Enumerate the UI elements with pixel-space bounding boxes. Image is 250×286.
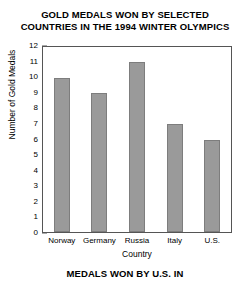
y-tick-label-4: 4 <box>34 167 38 175</box>
bar-italy <box>167 124 183 232</box>
y-tick-label-0: 0 <box>34 229 38 237</box>
x-axis-label: Country <box>42 249 232 259</box>
chart-figure: GOLD MEDALS WON BY SELECTED COUNTRIES IN… <box>0 0 250 286</box>
y-tick-label-10: 10 <box>29 73 38 81</box>
y-axis-tick-labels: 1211109876543210 <box>22 46 38 233</box>
bar-slot <box>43 47 81 232</box>
bottom-caption: MEDALS WON BY U.S. IN <box>0 268 250 280</box>
y-axis-label: Number of Gold Medals <box>8 35 17 155</box>
y-tick-label-9: 9 <box>34 89 38 97</box>
chart-title-line-2: COUNTRIES IN THE 1994 WINTER OLYMPICS <box>0 21 250 33</box>
bar-russia <box>129 62 145 232</box>
y-tick-label-8: 8 <box>34 104 38 112</box>
x-tick-label-russia: Russia <box>118 236 156 246</box>
y-tick-label-11: 11 <box>30 58 38 66</box>
bar-germany <box>91 93 107 232</box>
x-tick-label-germany: Germany <box>81 236 119 246</box>
bar-norway <box>54 78 70 232</box>
y-tick-label-1: 1 <box>34 213 38 221</box>
y-tick-label-5: 5 <box>34 151 38 159</box>
bar-slot <box>118 47 156 232</box>
bar-series <box>43 47 231 232</box>
x-tick-label-norway: Norway <box>43 236 81 246</box>
x-axis-tick-labels: NorwayGermanyRussiaItalyU.S. <box>43 236 231 248</box>
bar-slot <box>156 47 194 232</box>
y-tick-label-12: 12 <box>29 42 38 50</box>
y-tick-label-7: 7 <box>34 120 38 128</box>
y-tick-label-3: 3 <box>34 182 38 190</box>
chart-title: GOLD MEDALS WON BY SELECTED COUNTRIES IN… <box>0 9 250 33</box>
bar-slot <box>81 47 119 232</box>
bar-slot <box>193 47 231 232</box>
y-tick-label-6: 6 <box>34 136 38 144</box>
y-tick-label-2: 2 <box>34 198 38 206</box>
x-tick-label-u-s: U.S. <box>193 236 231 246</box>
bar-u-s <box>204 140 220 233</box>
chart-title-line-1: GOLD MEDALS WON BY SELECTED <box>0 9 250 21</box>
x-tick-label-italy: Italy <box>156 236 194 246</box>
